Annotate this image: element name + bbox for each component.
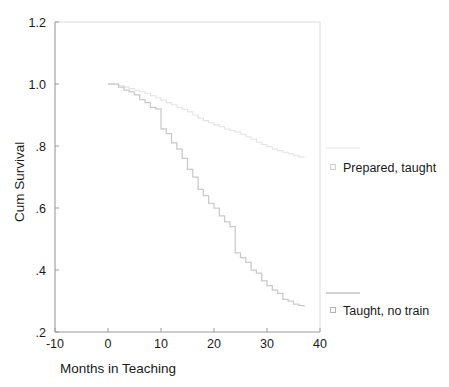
survival-chart: .2.4.6.81.01.2 -10010203040 Cum Survival… xyxy=(0,0,449,387)
x-tick-label: 10 xyxy=(154,337,168,351)
x-tick-label: 0 xyxy=(105,337,112,351)
x-axis-title: Months in Teaching xyxy=(60,361,176,376)
y-axis-title: Cum Survival xyxy=(12,142,27,222)
x-tick-label: 40 xyxy=(313,337,327,351)
y-tick-label: .4 xyxy=(36,264,46,278)
x-tick-label: 20 xyxy=(207,337,221,351)
y-tick-label: .6 xyxy=(36,202,46,216)
legend-label-prepared-taught: Prepared, taught xyxy=(343,161,437,175)
legend-label-taught-no-train: Taught, no train xyxy=(343,304,429,318)
y-tick-label: .8 xyxy=(36,140,46,154)
y-tick-label: .2 xyxy=(36,326,46,340)
x-tick-label: -10 xyxy=(46,337,64,351)
chart-background xyxy=(0,0,449,387)
y-tick-label: 1.0 xyxy=(29,78,46,92)
y-tick-label: 1.2 xyxy=(29,16,46,30)
x-tick-label: 30 xyxy=(260,337,274,351)
